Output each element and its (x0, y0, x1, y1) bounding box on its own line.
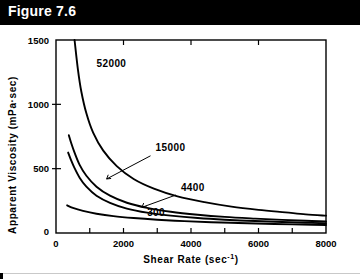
figure-container: Figure 7.6 02000400060008000 05001000150… (0, 0, 360, 279)
x-tick-label: 4000 (180, 238, 201, 249)
figure-title-bar: Figure 7.6 (0, 0, 360, 25)
leader-line-4400 (142, 195, 176, 207)
x-axis-title: Shear Rate (sec-1) (143, 253, 238, 265)
y-tick-label: 500 (33, 163, 49, 174)
viscosity-shear-rate-chart: 02000400060008000 050010001500 520001500… (0, 25, 360, 273)
y-tick-label: 0 (44, 226, 49, 237)
leader-arrow-4400 (142, 203, 147, 207)
x-axis-tick-labels: 02000400060008000 (53, 238, 336, 249)
y-tick-label: 1500 (28, 35, 49, 46)
x-tick-label: 2000 (113, 238, 134, 249)
y-axis-title: Apparent Viscosity (mPa·sec) (7, 76, 18, 234)
y-axis-tick-labels: 050010001500 (28, 35, 49, 238)
figure-title: Figure 7.6 (8, 3, 76, 19)
x-tick-label: 0 (53, 238, 58, 249)
chart-area: 02000400060008000 050010001500 520001500… (0, 25, 360, 273)
curve-labels: 52000150004400300 (97, 58, 205, 218)
x-tick-label: 8000 (315, 238, 336, 249)
page-corner-mark (0, 273, 3, 279)
page-bottom-rule (0, 273, 360, 279)
curve-label-300: 300 (147, 207, 165, 218)
x-tick-label: 6000 (248, 238, 269, 249)
curve-label-4400: 4400 (181, 182, 205, 193)
y-tick-label: 1000 (28, 99, 49, 110)
curve-label-52000: 52000 (97, 58, 127, 69)
curve-label-15000: 15000 (156, 142, 186, 153)
